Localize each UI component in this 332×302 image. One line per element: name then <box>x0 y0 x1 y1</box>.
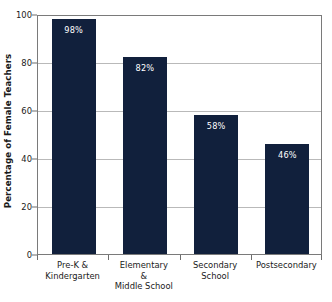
y-axis-tick-label: 20 <box>21 202 32 212</box>
x-axis-category-label: Postsecondary <box>251 260 322 271</box>
x-axis-tick-labels: Pre-K &KindergartenElementary&Middle Sch… <box>37 260 322 302</box>
bar-value-label: 82% <box>123 63 167 73</box>
y-axis-tick-label: 40 <box>21 154 32 164</box>
y-axis-tick-label: 100 <box>16 10 32 20</box>
x-axis-category-label-line: & <box>108 271 179 282</box>
x-axis-category-label-line: School <box>180 271 251 282</box>
bar-value-label: 46% <box>265 150 309 160</box>
x-axis-category-label-line: Secondary <box>180 260 251 271</box>
x-axis-category-label-line: Middle School <box>108 281 179 292</box>
bar[interactable]: 46% <box>265 144 309 254</box>
x-axis-category-label: Pre-K &Kindergarten <box>37 260 108 281</box>
y-axis-tick-labels: 020406080100 <box>14 0 32 262</box>
x-axis-category-label-line: Kindergarten <box>37 271 108 282</box>
y-axis-tick-label: 80 <box>21 58 32 68</box>
x-axis-category-label-line: Postsecondary <box>251 260 322 271</box>
plot-area: 98%82%58%46% <box>37 15 322 255</box>
x-axis-category-label: Elementary&Middle School <box>108 260 179 292</box>
bar[interactable]: 98% <box>52 19 96 254</box>
x-axis-category-label-line: Pre-K & <box>37 260 108 271</box>
x-axis-category-label: SecondarySchool <box>180 260 251 281</box>
bar-value-label: 98% <box>52 25 96 35</box>
bar-value-label: 58% <box>194 121 238 131</box>
bar-chart-figure: Percentage of Female Teachers 0204060801… <box>0 0 332 302</box>
bar[interactable]: 82% <box>123 57 167 254</box>
y-axis-tick-label: 60 <box>21 106 32 116</box>
y-axis-title-text: Percentage of Female Teachers <box>3 54 13 208</box>
bar[interactable]: 58% <box>194 115 238 254</box>
x-axis-category-label-line: Elementary <box>108 260 179 271</box>
